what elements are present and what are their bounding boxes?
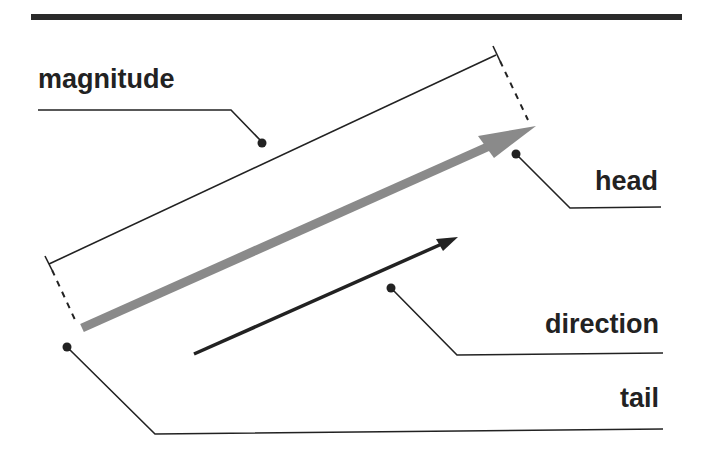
tail-callout: tail <box>63 343 664 435</box>
direction-arrowhead <box>436 237 458 251</box>
vector-diagram: magnitude head direction tail <box>0 0 701 467</box>
direction-label: direction <box>545 309 659 339</box>
tail-label: tail <box>620 383 659 413</box>
direction-callout: direction <box>387 284 664 356</box>
magnitude-label: magnitude <box>38 64 175 94</box>
head-label: head <box>595 166 658 196</box>
main-vector-arrow <box>82 126 536 328</box>
callout-dot <box>258 139 267 148</box>
magnitude-callout: magnitude <box>38 64 267 148</box>
head-callout: head <box>512 150 662 209</box>
callout-dot <box>387 284 396 293</box>
vector-arrowhead <box>478 126 536 158</box>
extension-line-head <box>500 61 528 120</box>
direction-arrow <box>194 237 458 354</box>
callout-dot <box>63 343 72 352</box>
extension-line-tail <box>52 270 76 322</box>
top-rule <box>31 14 682 20</box>
callout-dot <box>512 150 521 159</box>
